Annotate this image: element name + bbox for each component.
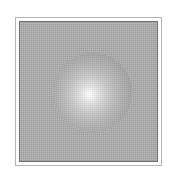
sphere-shadow-rim xyxy=(53,53,132,132)
shaded-sphere xyxy=(53,53,132,132)
figure-root xyxy=(0,0,177,181)
inner-frame-border xyxy=(19,21,158,162)
